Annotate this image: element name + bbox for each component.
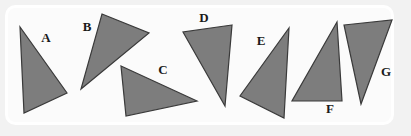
triangle-label-e: E [257,33,266,48]
triangle-label-a: A [41,30,51,45]
triangle-label-d: D [199,10,208,25]
triangle-label-f: F [326,101,334,116]
figure-canvas: ABCDEFG [0,0,411,136]
triangles-figure: ABCDEFG [0,0,411,136]
triangle-label-g: G [381,64,391,79]
triangle-label-b: B [83,19,92,34]
triangle-label-c: C [158,62,167,77]
